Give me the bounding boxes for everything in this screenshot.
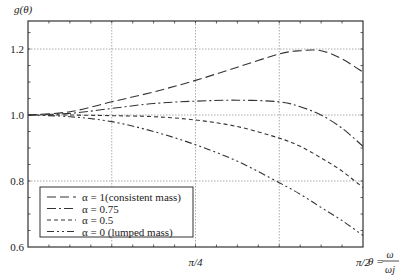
legend: α = 1(consistent mass)α = 0.75α = 0.5α =…	[40, 187, 193, 239]
y-tick-label: 1.0	[10, 109, 24, 121]
legend-label: α = 0.5	[82, 214, 114, 226]
y-tick-label: 0.8	[10, 175, 24, 187]
legend-label: α = 0 (lumped mass)	[82, 226, 173, 239]
chart: 0.60.81.01.2π/4π/2 α = 1(consistent mass…	[0, 0, 410, 276]
y-tick-label: 0.6	[10, 241, 24, 253]
svg-text:ω: ω	[386, 249, 393, 260]
legend-label: α = 0.75	[82, 203, 119, 215]
svg-text:θ =: θ =	[368, 255, 384, 267]
x-axis-title: θ = ω ωj	[368, 249, 399, 275]
svg-text:ωj: ωj	[385, 264, 395, 275]
x-tick-label: π/4	[188, 256, 203, 268]
y-axis-title: g(θ)	[14, 3, 33, 16]
y-tick-label: 1.2	[10, 43, 24, 55]
